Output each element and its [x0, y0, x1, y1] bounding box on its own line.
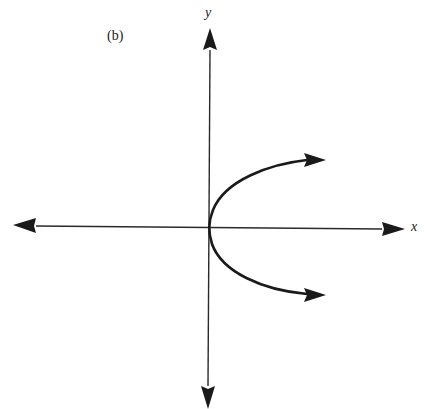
graph-canvas	[0, 0, 424, 409]
curve-upper-arrow-icon	[304, 153, 326, 167]
x-axis-label: x	[411, 220, 417, 234]
y-axis-label: y	[205, 6, 211, 20]
x-axis-left-arrow-icon	[13, 218, 36, 233]
curve-lower-arrow-icon	[304, 288, 326, 302]
y-axis-up-arrow-icon	[203, 28, 217, 50]
graph-figure: (b) y x	[0, 0, 424, 409]
y-axis-down-arrow-icon	[201, 386, 215, 409]
x-axis-right-arrow-icon	[382, 222, 405, 236]
panel-label: (b)	[107, 29, 123, 43]
